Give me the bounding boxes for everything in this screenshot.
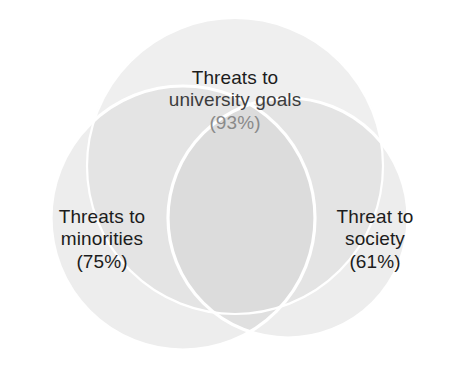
venn-diagram-figure: Threats to university goals (93%) Threat… [0,0,470,367]
venn-canvas [0,0,470,367]
